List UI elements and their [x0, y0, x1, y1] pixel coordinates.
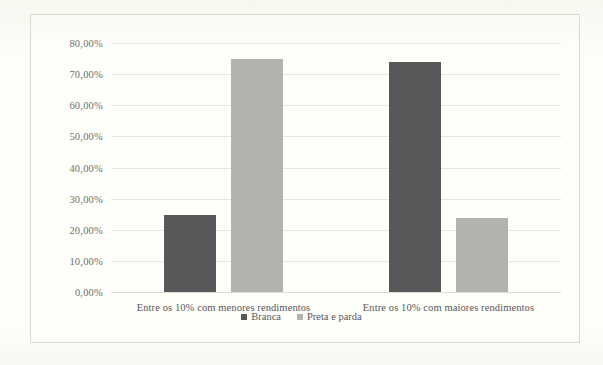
chart-frame: 0,00%10,00%20,00%30,00%40,00%50,00%60,00… — [30, 14, 580, 343]
legend-swatch-icon-branca — [241, 314, 247, 320]
y-axis-tick-label: 50,00% — [69, 131, 103, 142]
bar-branca-group-2 — [389, 62, 441, 292]
y-axis-tick-label: 70,00% — [69, 69, 103, 80]
bar-preta-group-1 — [231, 59, 283, 292]
legend-entry-preta[interactable]: Preta e parda — [297, 311, 362, 322]
legend-label: Preta e parda — [307, 311, 362, 322]
y-axis-tick-label: 80,00% — [69, 38, 103, 49]
legend-label: Branca — [251, 311, 281, 322]
y-axis-tick-label: 40,00% — [69, 162, 103, 173]
gridline-5000 — [111, 136, 561, 137]
y-axis-tick-label: 60,00% — [69, 100, 103, 111]
gridline-000 — [111, 292, 561, 293]
chart-legend: BrancaPreta e parda — [0, 311, 603, 322]
gridline-8000 — [111, 43, 561, 44]
bar-preta-group-2 — [456, 218, 508, 292]
y-axis-tick-label: 20,00% — [69, 224, 103, 235]
gridline-7000 — [111, 74, 561, 75]
bar-branca-group-1 — [164, 215, 216, 292]
gridline-3000 — [111, 199, 561, 200]
y-axis-tick-label: 10,00% — [69, 255, 103, 266]
scanned-page-background: 0,00%10,00%20,00%30,00%40,00%50,00%60,00… — [0, 0, 603, 365]
chart-plot-area: 0,00%10,00%20,00%30,00%40,00%50,00%60,00… — [111, 43, 561, 292]
gridline-6000 — [111, 105, 561, 106]
legend-entry-branca[interactable]: Branca — [241, 311, 281, 322]
y-axis-tick-label: 0,00% — [75, 287, 103, 298]
y-axis-tick-label: 30,00% — [69, 193, 103, 204]
gridline-4000 — [111, 168, 561, 169]
legend-swatch-icon-preta — [297, 314, 303, 320]
